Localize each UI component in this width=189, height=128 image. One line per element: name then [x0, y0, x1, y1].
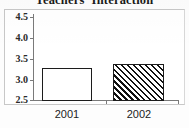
- y-tick-label-3.0: 3.0: [2, 75, 28, 85]
- y-tick-label-2.5: 2.5: [2, 95, 28, 105]
- y-tick-mark-2.5: [30, 100, 34, 101]
- y-tick-mark-4.5: [30, 17, 34, 18]
- y-tick-mark-3.0: [30, 80, 34, 81]
- bar-2001: [42, 68, 92, 101]
- y-tick-label-3.5: 3.5: [2, 54, 28, 64]
- y-tick-mark-4.0: [30, 38, 34, 39]
- x-tick-mark-end: [178, 100, 179, 104]
- bar-2002: [113, 64, 164, 101]
- bar-chart-figure: Teachers' Interaction 4.5 4.0 3.5 3.0 2.…: [0, 0, 189, 128]
- y-tick-label-4.0: 4.0: [2, 33, 28, 43]
- y-axis-line: [33, 14, 34, 101]
- chart-title: Teachers' Interaction: [0, 0, 189, 8]
- x-tick-mark-divider: [106, 100, 107, 104]
- y-tick-mark-3.5: [30, 59, 34, 60]
- x-tick-label-2002: 2002: [109, 108, 169, 120]
- y-tick-label-4.5: 4.5: [2, 12, 28, 22]
- x-tick-label-2001: 2001: [37, 108, 97, 120]
